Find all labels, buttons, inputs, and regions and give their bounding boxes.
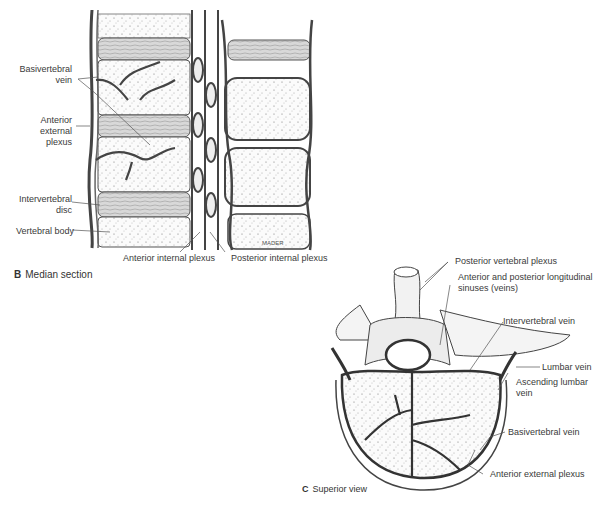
label-anterior-internal-plexus: Anterior internal plexus	[123, 253, 215, 264]
caption-superior-view: CSuperior view	[302, 484, 367, 494]
caption-median-section: BMedian section	[14, 269, 93, 280]
label-posterior-vertebral-plexus: Posterior vertebral plexus	[455, 256, 557, 267]
label-ascending-lumbar-vein: Ascending lumbar vein	[516, 377, 588, 399]
label-line: plexus	[0, 137, 72, 148]
svg-text:MADER: MADER	[262, 240, 284, 246]
label-anterior-external-plexus-b: Anterior external plexus	[0, 115, 72, 148]
label-line: Ascending lumbar	[516, 377, 588, 388]
label-line: sinuses (veins)	[458, 283, 593, 294]
label-line: disc	[0, 205, 72, 216]
label-intervertebral-disc: Intervertebral disc	[0, 194, 72, 216]
label-line: vein	[0, 75, 72, 86]
label-lumbar-vein: Lumbar vein	[542, 362, 592, 373]
panel-letter-b: B	[14, 269, 21, 280]
caption-text: Median section	[25, 269, 92, 280]
label-line: vein	[516, 388, 588, 399]
label-anterior-external-plexus-c: Anterior external plexus	[490, 469, 585, 480]
label-line: Basivertebral	[0, 64, 72, 75]
label-line: external	[0, 126, 72, 137]
panel-letter-c: C	[302, 484, 309, 494]
label-longitudinal-sinuses: Anterior and posterior longitudinal sinu…	[458, 272, 593, 294]
median-section-drawing: MADER	[72, 10, 312, 252]
label-line: Anterior and posterior longitudinal	[458, 272, 593, 283]
label-posterior-internal-plexus: Posterior internal plexus	[231, 253, 328, 264]
caption-text: Superior view	[313, 484, 368, 494]
label-vertebral-body: Vertebral body	[16, 226, 74, 237]
label-intervertebral-vein: Intervertebral vein	[503, 316, 575, 327]
label-basivertebral-vein-c: Basivertebral vein	[508, 427, 580, 438]
label-line: Intervertebral	[0, 194, 72, 205]
label-line: Anterior	[0, 115, 72, 126]
label-basivertebral-vein-b: Basivertebral vein	[0, 64, 72, 86]
